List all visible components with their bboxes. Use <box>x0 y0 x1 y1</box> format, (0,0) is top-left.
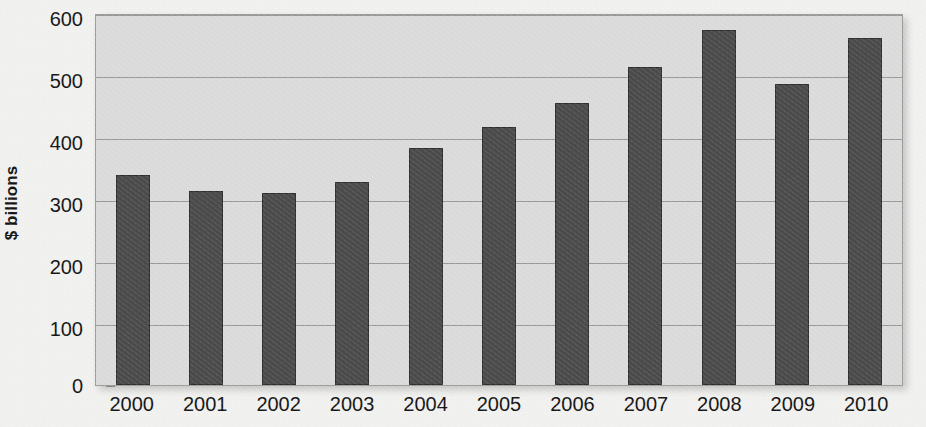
bar-2000[interactable] <box>116 175 150 385</box>
bar-2005[interactable] <box>482 127 516 385</box>
bar-2008[interactable] <box>702 30 736 385</box>
bar-2010[interactable] <box>848 38 882 385</box>
y-axis-title: $ billions <box>2 128 22 278</box>
x-axis-tick-labels: 2000 2001 2002 2003 2004 2005 2006 2007 … <box>95 392 903 416</box>
y-tick-label-300: 300 <box>23 195 83 215</box>
bar-2002[interactable] <box>262 193 296 385</box>
bar-slot-2004 <box>389 15 462 385</box>
x-tick-label-2000: 2000 <box>95 392 168 416</box>
bar-slot-2005 <box>462 15 535 385</box>
bar-slot-2008 <box>682 15 755 385</box>
x-tick-label-2006: 2006 <box>536 392 609 416</box>
plot-area <box>95 14 903 386</box>
x-tick-label-2004: 2004 <box>389 392 462 416</box>
y-tick-label-0: 0 <box>23 376 83 396</box>
bar-2006[interactable] <box>555 103 589 385</box>
x-tick-label-2003: 2003 <box>315 392 388 416</box>
y-tick-label-600: 600 <box>23 9 83 29</box>
y-tick-label-400: 400 <box>23 133 83 153</box>
bar-slot-2006 <box>536 15 609 385</box>
y-tick-mark-0 <box>106 386 115 387</box>
bar-slot-2007 <box>609 15 682 385</box>
bar-2003[interactable] <box>335 182 369 386</box>
bar-2001[interactable] <box>189 191 223 385</box>
bar-slot-2000 <box>96 15 169 385</box>
bar-2007[interactable] <box>628 67 662 385</box>
x-tick-label-2002: 2002 <box>242 392 315 416</box>
bar-slot-2003 <box>316 15 389 385</box>
bar-2004[interactable] <box>409 148 443 385</box>
y-axis-tick-labels: 600 500 400 300 200 100 0 <box>20 0 83 427</box>
bar-slot-2001 <box>169 15 242 385</box>
plot-inner <box>96 15 902 385</box>
bar-slot-2002 <box>243 15 316 385</box>
y-tick-label-500: 500 <box>23 71 83 91</box>
bars-layer <box>96 15 902 385</box>
bar-slot-2009 <box>755 15 828 385</box>
bar-chart-figure: $ billions 600 500 400 300 200 100 0 <box>0 0 926 427</box>
y-tick-label-200: 200 <box>23 257 83 277</box>
x-tick-label-2005: 2005 <box>462 392 535 416</box>
x-tick-label-2008: 2008 <box>683 392 756 416</box>
x-tick-label-2001: 2001 <box>168 392 241 416</box>
x-tick-label-2010: 2010 <box>830 392 903 416</box>
bar-2009[interactable] <box>775 84 809 385</box>
bar-slot-2010 <box>829 15 902 385</box>
x-tick-label-2009: 2009 <box>756 392 829 416</box>
y-tick-label-100: 100 <box>23 319 83 339</box>
x-tick-label-2007: 2007 <box>609 392 682 416</box>
